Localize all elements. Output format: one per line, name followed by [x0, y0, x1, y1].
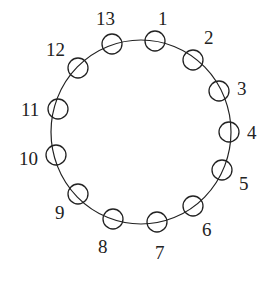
label-group: 12345678910111213 — [19, 8, 257, 263]
node-label-3: 3 — [237, 78, 247, 99]
node-label-1: 1 — [158, 8, 168, 29]
node-5 — [212, 160, 232, 180]
node-6 — [183, 196, 203, 216]
node-label-11: 11 — [21, 99, 39, 120]
node-label-10: 10 — [19, 148, 38, 169]
node-label-13: 13 — [96, 8, 115, 29]
node-4 — [219, 122, 239, 142]
node-2 — [183, 50, 203, 70]
node-label-5: 5 — [239, 173, 249, 194]
node-label-7: 7 — [155, 242, 165, 263]
node-label-9: 9 — [55, 202, 65, 223]
node-9 — [68, 184, 88, 204]
node-3 — [209, 81, 229, 101]
node-label-6: 6 — [202, 219, 212, 240]
node-group — [46, 31, 239, 232]
node-label-12: 12 — [46, 39, 65, 60]
ring-diagram: 12345678910111213 — [0, 0, 275, 287]
node-13 — [102, 34, 122, 54]
node-12 — [68, 58, 88, 78]
node-11 — [48, 99, 68, 119]
node-label-2: 2 — [204, 27, 214, 48]
node-label-8: 8 — [98, 236, 108, 257]
node-label-4: 4 — [247, 122, 257, 143]
main-ring — [51, 40, 231, 224]
